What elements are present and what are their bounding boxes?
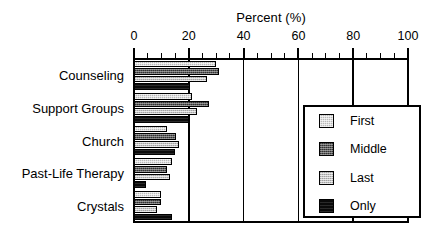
bar-counseling-last <box>134 76 207 83</box>
legend-item-last[interactable]: Last <box>305 164 419 192</box>
bar-church-only <box>134 149 175 156</box>
bar-crystals-first <box>134 191 161 198</box>
legend-label-first: First <box>350 114 374 128</box>
bar-past-life-therapy-last <box>134 174 170 181</box>
category-label-church: Church <box>82 133 124 148</box>
legend-label-only: Only <box>350 199 376 213</box>
bar-support-groups-first <box>134 93 192 100</box>
legend-item-first[interactable]: First <box>305 107 419 135</box>
bar-counseling-only <box>134 83 190 90</box>
bar-crystals-last <box>134 206 157 213</box>
bar-crystals-only <box>134 214 172 221</box>
bar-support-groups-only <box>134 116 189 123</box>
category-label-support-groups: Support Groups <box>32 100 124 115</box>
bar-counseling-first <box>134 61 216 68</box>
legend-label-middle: Middle <box>350 142 387 156</box>
bar-past-life-therapy-middle <box>134 166 167 173</box>
legend-swatch-middle <box>319 142 334 156</box>
bar-crystals-middle <box>134 199 161 206</box>
chart-figure: Percent (%) 020406080100 CounselingSuppo… <box>0 0 429 241</box>
legend-swatch-only <box>319 199 334 213</box>
bar-support-groups-middle <box>134 101 209 108</box>
legend-label-last: Last <box>350 171 374 185</box>
category-axis-labels: CounselingSupport GroupsChurchPast-Life … <box>0 55 128 225</box>
bar-church-last <box>134 141 179 148</box>
category-label-crystals: Crystals <box>77 198 124 213</box>
bar-church-middle <box>134 133 176 140</box>
category-label-counseling: Counseling <box>59 68 124 83</box>
legend-item-only[interactable]: Only <box>305 192 419 220</box>
bar-counseling-middle <box>134 68 219 75</box>
legend-swatch-last <box>319 171 334 185</box>
category-label-past-life-therapy: Past-Life Therapy <box>22 166 124 181</box>
legend-swatch-first <box>319 114 334 128</box>
legend-item-middle[interactable]: Middle <box>305 135 419 163</box>
bar-support-groups-last <box>134 108 197 115</box>
bar-church-first <box>134 126 167 133</box>
chart-legend: FirstMiddleLastOnly <box>303 105 421 218</box>
bar-past-life-therapy-first <box>134 158 172 165</box>
bar-past-life-therapy-only <box>134 181 146 188</box>
